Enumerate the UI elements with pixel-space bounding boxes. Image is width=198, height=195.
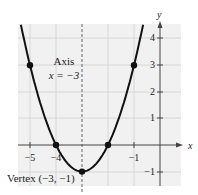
y-tick-label: 3: [150, 59, 155, 70]
data-point: [105, 142, 111, 148]
data-point: [79, 168, 85, 174]
vertex-label: Vertex (−3, −1): [7, 172, 75, 185]
data-point: [131, 62, 137, 68]
data-point: [53, 142, 59, 148]
y-axis-label: y: [156, 9, 162, 20]
parabola-chart: x y −5 −4 −1 4 3 2 1 −1 Axis x = −3 Vert…: [0, 0, 198, 195]
plot-background: [18, 24, 181, 186]
y-tick-label: 1: [150, 112, 155, 123]
y-tick-label: 4: [150, 32, 155, 43]
x-axis-label: x: [187, 140, 193, 151]
data-point: [27, 62, 33, 68]
x-tick-label: −4: [51, 152, 62, 163]
y-tick-label: −1: [144, 166, 155, 177]
axis-label-line2: x = −3: [48, 69, 80, 81]
y-tick-label: 2: [150, 86, 155, 97]
x-tick-label: −1: [129, 152, 140, 163]
axis-label-line1: Axis: [54, 55, 75, 67]
x-tick-label: −5: [25, 152, 36, 163]
